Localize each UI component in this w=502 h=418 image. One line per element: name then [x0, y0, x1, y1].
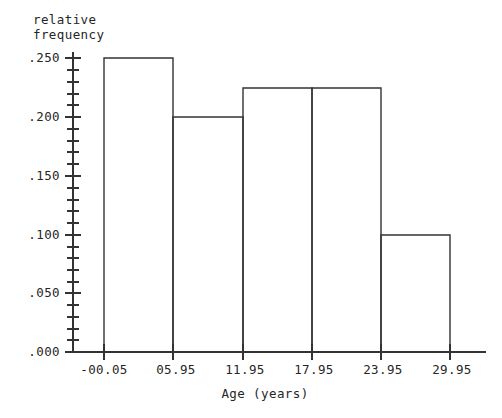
histogram-bars: [104, 58, 450, 352]
x-tick-label-1: 05.95: [136, 362, 216, 377]
x-tick-label-3: 17.95: [274, 362, 354, 377]
bar-1: [104, 58, 173, 352]
bar-3: [243, 88, 312, 352]
y-tick-label-4: .050: [0, 285, 60, 300]
x-tick-label-5: 29.95: [412, 362, 492, 377]
y-tick-label-2: .150: [0, 168, 60, 183]
bar-5: [381, 235, 450, 352]
histogram-chart: relative frequency: [0, 0, 502, 418]
bar-2: [173, 117, 243, 352]
x-axis-title: Age (years): [0, 386, 502, 401]
y-tick-label-0: .250: [0, 50, 60, 65]
bar-4: [312, 88, 381, 352]
axes-group: [73, 52, 486, 352]
y-tick-label-5: .000: [0, 344, 60, 359]
plot-area: [0, 0, 502, 418]
x-tick-label-4: 23.95: [343, 362, 423, 377]
y-tick-label-1: .200: [0, 109, 60, 124]
x-tick-label-2: 11.95: [205, 362, 285, 377]
x-tick-label-0: -00.05: [64, 362, 144, 377]
y-tick-label-3: .100: [0, 227, 60, 242]
